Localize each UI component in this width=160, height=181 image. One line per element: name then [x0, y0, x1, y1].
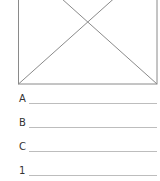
row-label: C	[19, 142, 26, 152]
row-label: B	[19, 118, 26, 128]
answer-row-1: 1	[19, 163, 159, 177]
answer-row-c: C	[19, 139, 159, 153]
answer-line[interactable]	[29, 151, 157, 152]
answer-line[interactable]	[29, 175, 157, 176]
figure-diagonal-1	[19, 0, 158, 84]
answer-line[interactable]	[29, 127, 157, 128]
figure-frame	[19, 0, 158, 84]
answer-row-a: A	[19, 91, 159, 105]
answer-row-b: B	[19, 115, 159, 129]
row-label: A	[19, 94, 26, 104]
row-label: 1	[19, 166, 25, 176]
answer-line[interactable]	[29, 103, 157, 104]
figure-diagonal-2	[19, 0, 158, 84]
placeholder-figure	[0, 0, 160, 90]
